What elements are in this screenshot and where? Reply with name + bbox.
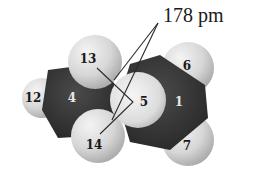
molecule-figure: 178 pm 12 4 13 14 5 1 6 7 [0, 0, 271, 181]
atom-label-1: 1 [175, 96, 183, 108]
atom-label-7: 7 [183, 140, 191, 152]
distance-annotation: 178 pm [163, 4, 224, 26]
atom-label-13: 13 [80, 53, 97, 65]
center-atom-5-sphere [110, 72, 166, 128]
atom-label-5: 5 [140, 96, 148, 108]
atom-label-6: 6 [183, 60, 191, 72]
atom-label-12: 12 [25, 92, 42, 104]
atom-label-14: 14 [86, 139, 103, 151]
atom-label-4: 4 [68, 92, 76, 104]
